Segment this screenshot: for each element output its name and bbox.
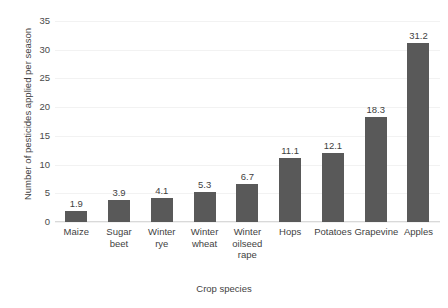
- bar[interactable]: [279, 158, 301, 222]
- bar[interactable]: [236, 184, 258, 222]
- bar-group: 3.9: [98, 21, 141, 222]
- y-tick-label: 5: [26, 188, 50, 198]
- x-tick-label: Grapevine: [354, 226, 397, 238]
- x-tick-label: Winter oilseed rape: [226, 226, 269, 261]
- x-tick-label: Maize: [55, 226, 98, 238]
- bar-group: 4.1: [141, 21, 184, 222]
- bar[interactable]: [151, 198, 173, 222]
- y-tick-label: 10: [26, 160, 50, 170]
- y-tick-label: 35: [26, 16, 50, 26]
- bar-group: 18.3: [354, 21, 397, 222]
- bar-group: 31.2: [397, 21, 440, 222]
- y-tick-label: 20: [26, 102, 50, 112]
- y-tick-label: 30: [26, 45, 50, 55]
- bar[interactable]: [194, 192, 216, 222]
- plot-area: 1.93.94.15.36.711.112.118.331.2: [55, 21, 440, 222]
- bar-value-label: 4.1: [155, 185, 168, 196]
- y-axis-tick-labels: 05101520253035: [26, 0, 50, 308]
- x-tick-label: Hops: [269, 226, 312, 238]
- x-tick-label: Winter rye: [141, 226, 184, 249]
- y-tick-label: 0: [26, 217, 50, 227]
- bar-value-label: 12.1: [324, 140, 343, 151]
- bar-group: 12.1: [312, 21, 355, 222]
- bar[interactable]: [108, 200, 130, 222]
- x-tick-label: Winter wheat: [183, 226, 226, 249]
- bar-value-label: 18.3: [366, 104, 385, 115]
- bar-value-label: 31.2: [409, 30, 428, 41]
- bar-value-label: 5.3: [198, 179, 211, 190]
- x-axis-tick-labels: MaizeSugar beetWinter ryeWinter wheatWin…: [55, 226, 440, 276]
- bar-value-label: 6.7: [241, 171, 254, 182]
- y-tick-label: 15: [26, 131, 50, 141]
- bar-group: 6.7: [226, 21, 269, 222]
- bar-group: 5.3: [183, 21, 226, 222]
- bar-chart: Number of pesticides applied per season …: [0, 0, 448, 308]
- gridline: [55, 222, 440, 223]
- bar[interactable]: [322, 153, 344, 222]
- y-tick-label: 25: [26, 73, 50, 83]
- bar[interactable]: [407, 43, 429, 222]
- bar-value-label: 1.9: [70, 198, 83, 209]
- bar-value-label: 11.1: [281, 145, 299, 156]
- x-tick-label: Apples: [397, 226, 440, 238]
- x-axis-title: Crop species: [0, 283, 448, 295]
- bar[interactable]: [65, 211, 87, 222]
- bar-group: 1.9: [55, 21, 98, 222]
- x-tick-label: Potatoes: [312, 226, 355, 238]
- bar[interactable]: [365, 117, 387, 222]
- bar-value-label: 3.9: [112, 187, 125, 198]
- bar-group: 11.1: [269, 21, 312, 222]
- x-tick-label: Sugar beet: [98, 226, 141, 249]
